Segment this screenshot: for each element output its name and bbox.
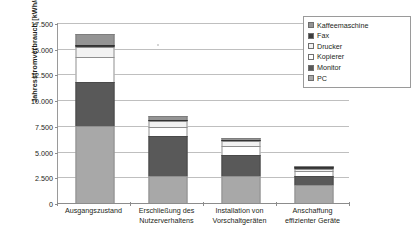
bar-slot bbox=[58, 23, 131, 203]
y-axis-tick-label: 7.500 bbox=[35, 122, 53, 131]
legend-swatch-icon bbox=[308, 43, 314, 49]
bar-segment-kopierer[interactable] bbox=[75, 57, 114, 82]
legend-swatch-icon bbox=[308, 33, 314, 39]
bar-segment-monitor[interactable] bbox=[294, 176, 333, 185]
stacked-bar[interactable] bbox=[75, 34, 114, 203]
bar-segment-kopierer[interactable] bbox=[148, 127, 187, 136]
stacked-bar-chart: Jahresstromverbrauch [kWh/a] 02.5005.000… bbox=[0, 0, 415, 244]
x-axis-category-label: Ausgangszustand bbox=[57, 206, 130, 216]
y-axis-tick-label: 5.000 bbox=[35, 148, 53, 157]
legend-item-label: Drucker bbox=[317, 43, 342, 50]
legend-swatch-icon bbox=[308, 54, 314, 60]
x-axis-tick-mark bbox=[57, 202, 58, 206]
legend-item-drucker[interactable]: Drucker bbox=[308, 41, 407, 52]
legend-swatch-icon bbox=[308, 65, 314, 71]
bar-segment-pc[interactable] bbox=[75, 126, 114, 203]
stacked-bar[interactable] bbox=[294, 166, 333, 203]
bar-segment-pc[interactable] bbox=[148, 176, 187, 203]
y-axis-tick-label: 15.000 bbox=[31, 45, 53, 54]
legend-swatch-icon bbox=[308, 22, 314, 28]
x-axis-tick-mark bbox=[203, 202, 204, 206]
bar-segment-pc[interactable] bbox=[221, 176, 260, 203]
legend-item-label: PC bbox=[317, 75, 327, 82]
legend-item-label: Kaffeemaschine bbox=[317, 22, 368, 29]
bar-slot bbox=[204, 23, 277, 203]
legend-swatch-icon bbox=[308, 75, 314, 81]
legend-item-kopierer[interactable]: Kopierer bbox=[308, 52, 407, 63]
x-axis-category-label: Anschaffungeffizienter Geräte bbox=[276, 206, 349, 225]
x-axis-labels: AusgangszustandErschließung desNutzerver… bbox=[57, 206, 349, 240]
x-axis-tick-mark bbox=[349, 202, 350, 206]
x-axis-tick-mark bbox=[276, 202, 277, 206]
bar-segment-drucker[interactable] bbox=[75, 47, 114, 57]
bar-segment-pc[interactable] bbox=[294, 185, 333, 204]
legend-item-label: Kopierer bbox=[317, 53, 344, 60]
x-axis-category-label: Installation vonVorschaltgeräten bbox=[203, 206, 276, 225]
y-axis-tick-label: 0 bbox=[49, 200, 53, 209]
stacked-bar[interactable] bbox=[221, 138, 260, 203]
legend-item-fax[interactable]: Fax bbox=[308, 31, 407, 42]
bar-segment-monitor[interactable] bbox=[75, 82, 114, 126]
bar-segment-monitor[interactable] bbox=[148, 136, 187, 176]
x-axis-tick-mark bbox=[130, 202, 131, 206]
bar-slot bbox=[131, 23, 204, 203]
legend-item-label: Monitor bbox=[317, 64, 341, 71]
bar-segment-monitor[interactable] bbox=[221, 155, 260, 176]
y-axis-tick-label: 17.500 bbox=[31, 20, 53, 29]
y-axis-tick-label: 10.000 bbox=[31, 97, 53, 106]
bar-segment-kopierer[interactable] bbox=[221, 146, 260, 155]
bar-segment-kaffeemaschine[interactable] bbox=[75, 34, 114, 44]
legend-item-label: Fax bbox=[317, 32, 329, 39]
x-axis-category-label: Erschließung desNutzerverhaltens bbox=[130, 206, 203, 225]
y-axis-tick-label: 12.500 bbox=[31, 71, 53, 80]
scan-artifact-dot bbox=[157, 44, 159, 46]
legend-item-kaffeemaschine[interactable]: Kaffeemaschine bbox=[308, 20, 407, 31]
legend-item-pc[interactable]: PC bbox=[308, 73, 407, 84]
stacked-bar[interactable] bbox=[148, 116, 187, 203]
chart-legend: KaffeemaschineFaxDruckerKopiererMonitorP… bbox=[303, 16, 411, 88]
y-axis-tick-label: 2.500 bbox=[35, 174, 53, 183]
legend-item-monitor[interactable]: Monitor bbox=[308, 62, 407, 73]
